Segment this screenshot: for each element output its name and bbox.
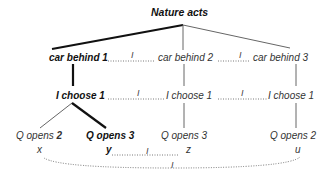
info-marker: I [137,88,140,98]
root-node: Nature acts [151,6,208,18]
node-q-opens-3-bold: Q opens 3 [86,130,134,142]
terminal-x: x [37,144,42,156]
node-choose-3: I choose 1 [268,90,314,102]
node-choose-1: I choose 1 [56,90,105,102]
node-choose-2: I choose 1 [166,90,212,102]
info-marker: I [171,160,174,170]
edge-nature-car1 [52,25,183,49]
edge-choose-q2 [40,103,72,128]
terminal-y: y [106,144,112,156]
node-car-behind-1: car behind 1 [49,52,108,64]
terminal-z: z [186,144,191,156]
node-car-behind-3: car behind 3 [253,52,308,64]
edge-nature-car3 [183,25,290,48]
node-car-behind-2: car behind 2 [158,52,213,64]
node-q-opens-2-left: Q opens 2 [16,130,62,142]
info-marker: I [146,146,149,156]
info-marker: I [239,50,242,60]
info-marker: I [131,50,134,60]
node-q-opens-3: Q opens 3 [161,130,207,142]
info-marker: I [241,88,244,98]
terminal-u: u [295,144,301,156]
node-q-opens-2-right: Q opens 2 [270,130,316,142]
edge-choose-q3 [72,103,106,128]
